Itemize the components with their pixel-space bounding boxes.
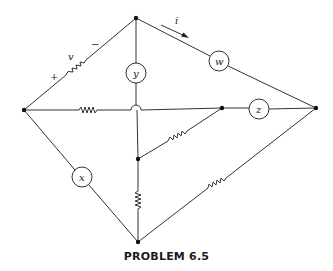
resistor-v xyxy=(24,18,136,110)
resistor-diagonal-middle xyxy=(138,108,222,159)
node-top xyxy=(134,16,138,20)
label-minus: − xyxy=(91,39,99,50)
branch-y xyxy=(126,18,146,159)
label-v: v xyxy=(68,51,74,62)
circuit-diagram: v + − i y w z x xyxy=(0,0,333,271)
current-arrow-i xyxy=(161,25,189,38)
node-right xyxy=(314,106,318,110)
circuit-figure: v + − i y w z x PROBLEM 6.5 xyxy=(0,0,333,271)
figure-caption: PROBLEM 6.5 xyxy=(0,250,333,263)
node-left xyxy=(22,108,26,112)
label-w: w xyxy=(215,56,224,67)
node-middle xyxy=(136,157,140,161)
node-bottom xyxy=(136,240,140,244)
wire-crossover-hop xyxy=(131,105,141,110)
branch-horizontal-resistor xyxy=(24,105,222,113)
branch-w xyxy=(136,18,316,108)
label-z: z xyxy=(255,104,262,115)
node-h-junction xyxy=(220,106,224,110)
label-x: x xyxy=(79,172,85,183)
resistor-bottom-right xyxy=(138,108,316,242)
branch-z xyxy=(222,99,316,119)
label-y: y xyxy=(132,68,139,79)
resistor-vertical-bottom xyxy=(135,159,141,242)
label-plus: + xyxy=(50,71,58,82)
label-i: i xyxy=(175,15,178,26)
